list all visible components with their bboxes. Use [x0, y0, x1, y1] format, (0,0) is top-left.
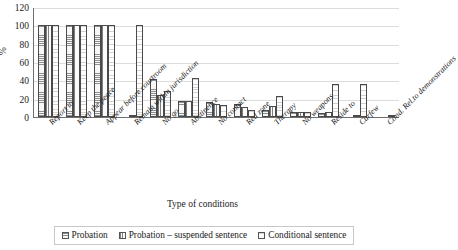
legend-swatch: [119, 232, 126, 239]
bar-group: [34, 8, 62, 117]
bar: [269, 106, 276, 117]
y-tick-label: 100: [0, 22, 29, 32]
x-tick-cell: Therapy: [259, 119, 287, 199]
bar: [241, 107, 248, 117]
legend-label: Conditional sentence: [268, 231, 346, 240]
x-tick-cell: Cond. Rel.to demonstrations: [372, 119, 400, 199]
bar: [38, 25, 45, 117]
bar: [325, 112, 332, 117]
x-tick-cell: Abstinence: [175, 119, 203, 199]
x-tick-cell: Keep the peace: [62, 119, 90, 199]
legend-swatch: [62, 232, 69, 239]
bar: [80, 25, 87, 117]
bar: [108, 25, 115, 117]
chart-legend: ProbationProbation – suspended sentenceC…: [54, 226, 354, 245]
x-tick-cell: Appear before courtroom: [90, 119, 118, 199]
y-tick-label: 20: [0, 96, 29, 106]
x-axis-title: Type of conditions: [0, 199, 405, 209]
legend-label: Probation: [72, 231, 108, 240]
legend-item[interactable]: Conditional sentence: [258, 231, 346, 240]
bar: [45, 25, 52, 117]
y-axis-tick-labels: 020406080100120: [0, 8, 31, 118]
y-tick-label: 80: [0, 41, 29, 51]
x-tick-cell: Remain within jurisdiction: [118, 119, 146, 199]
x-tick-cell: Report to: [34, 119, 62, 199]
legend-item[interactable]: Probation – suspended sentence: [119, 231, 248, 240]
x-tick-cell: Red zone: [231, 119, 259, 199]
bar: [185, 101, 192, 118]
bar: [136, 25, 143, 117]
y-tick-label: 0: [0, 114, 29, 124]
y-tick-label: 60: [0, 59, 29, 69]
x-tick-cell: No weapons: [287, 119, 315, 199]
bar-group: [371, 8, 399, 117]
x-tick-cell: No contact: [203, 119, 231, 199]
legend-label: Probation – suspended sentence: [129, 231, 248, 240]
x-axis-tick-labels: Report toKeep the peaceAppear before cou…: [34, 119, 400, 199]
y-tick-label: 120: [0, 4, 29, 14]
legend-item[interactable]: Probation: [62, 231, 108, 240]
x-tick-cell: Curfew: [344, 119, 372, 199]
x-tick-cell: Reside to: [316, 119, 344, 199]
y-tick-label: 40: [0, 77, 29, 87]
bar: [52, 25, 59, 117]
x-tick-cell: No go: [147, 119, 175, 199]
legend-swatch: [258, 232, 265, 239]
